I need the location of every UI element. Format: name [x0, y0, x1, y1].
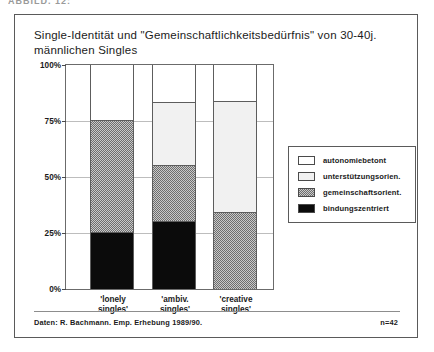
- stacked-bar[interactable]: 'ambiv. singles': [152, 65, 196, 289]
- y-axis-tick-label: 25%: [45, 229, 61, 238]
- y-axis-tick-mark: [62, 65, 66, 66]
- stacked-bar[interactable]: 'lonely singles': [90, 65, 134, 289]
- figure-frame: Single-Identität und "Gemeinschaftlichke…: [14, 14, 418, 338]
- legend-label: bindungszentriert: [323, 204, 389, 213]
- bar-segment-gemeinschaft[interactable]: [91, 121, 133, 233]
- bar-segment-autonomiebetont[interactable]: [214, 65, 256, 102]
- chart-title: Single-Identität und "Gemeinschaftlichke…: [34, 28, 417, 58]
- x-axis-tick-label: 'lonely singles': [81, 295, 145, 315]
- y-axis-tick-label: 50%: [45, 173, 61, 182]
- sample-size-note: n=42: [380, 318, 398, 327]
- legend-swatch-icon: [298, 204, 315, 213]
- chart-legend: autonomiebetontunterstützungsorien.gemei…: [288, 146, 416, 223]
- figure-caption-cutoff: ABBILD. 12:: [8, 0, 71, 6]
- source-note: Daten: R. Bachmann. Emp. Erhebung 1989/9…: [34, 318, 202, 327]
- legend-label: autonomiebetont: [323, 156, 386, 165]
- bar-segment-unterstuetzung[interactable]: [214, 102, 256, 213]
- x-axis-tick-label: 'ambiv. singles': [143, 295, 207, 315]
- y-axis-tick-mark: [62, 233, 66, 234]
- y-axis-tick-label: 75%: [45, 117, 61, 126]
- y-axis-tick-mark: [62, 121, 66, 122]
- bar-segment-unterstuetzung[interactable]: [153, 103, 195, 166]
- bar-segment-autonomiebetont[interactable]: [91, 65, 133, 121]
- bar-segment-gemeinschaft[interactable]: [153, 166, 195, 222]
- legend-swatch-icon: [298, 188, 315, 197]
- x-axis-tick-label: 'creative singles': [204, 295, 268, 315]
- legend-item-bindung[interactable]: bindungszentriert: [298, 204, 407, 213]
- legend-label: unterstützungsorien.: [323, 172, 401, 181]
- legend-item-gemeinschaft[interactable]: gemeinschaftsorient.: [298, 188, 407, 197]
- y-axis-tick-label: 0%: [49, 285, 61, 294]
- y-axis-tick-mark: [62, 177, 66, 178]
- y-axis-tick-label: 100%: [40, 61, 61, 70]
- bar-segment-gemeinschaft[interactable]: [214, 213, 256, 289]
- footer-divider: [34, 311, 400, 312]
- y-axis-tick-mark: [62, 289, 66, 290]
- legend-swatch-icon: [298, 172, 315, 181]
- legend-item-unterstuetzung[interactable]: unterstützungsorien.: [298, 172, 407, 181]
- bar-segment-bindung[interactable]: [91, 233, 133, 289]
- legend-swatch-icon: [298, 156, 315, 165]
- plot-area: 0%25%50%75%100%'lonely singles''ambiv. s…: [65, 64, 274, 290]
- legend-label: gemeinschaftsorient.: [323, 188, 401, 197]
- stacked-bar[interactable]: 'creative singles': [213, 65, 257, 289]
- bar-segment-bindung[interactable]: [153, 222, 195, 289]
- legend-item-autonomiebetont[interactable]: autonomiebetont: [298, 156, 407, 165]
- bar-segment-autonomiebetont[interactable]: [153, 65, 195, 103]
